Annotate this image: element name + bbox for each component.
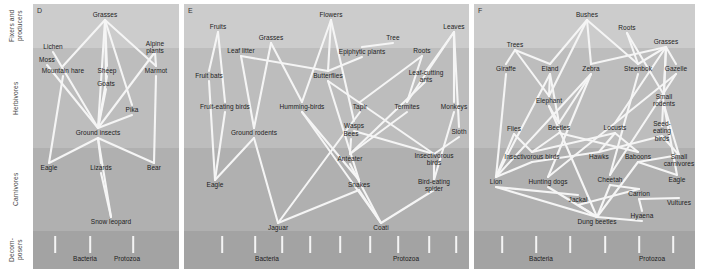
node-hyaena[interactable]: Hyaena [631, 212, 654, 219]
node-butterflies[interactable]: Butterflies [313, 72, 343, 79]
decomposer-label-protozoa: Protozoa [639, 255, 665, 262]
node-insectivorous-birds[interactable]: Insectivorous birds [414, 152, 453, 167]
decomposer-tick [221, 236, 223, 253]
node-eagle[interactable]: Eagle [207, 181, 224, 188]
decomposer-tick [254, 236, 256, 253]
node-flies[interactable]: Flies [507, 125, 521, 132]
node-giraffe[interactable]: Giraffe [496, 65, 516, 72]
panel-e: FlowersLeavesFruitsGrassesTreeLeaf litte… [184, 0, 469, 271]
node-seed-eating-birds[interactable]: Seed-eating birds [646, 120, 679, 142]
node-locusts[interactable]: Locusts [604, 124, 627, 131]
node-jackal[interactable]: Jackal [569, 196, 588, 203]
node-carrion[interactable]: Carrion [628, 190, 650, 197]
node-small-carnivores[interactable]: Small carnivores [664, 153, 695, 168]
food-web-link [381, 190, 434, 223]
node-vultures[interactable]: Vultures [667, 199, 691, 206]
trophic-level-axis: Fixers and producersHerbivoresCarnivores… [0, 0, 32, 271]
node-marmot[interactable]: Marmot [145, 67, 167, 74]
node-pika[interactable]: Pika [126, 106, 139, 113]
node-bees[interactable]: Bees [343, 130, 358, 137]
node-monkeys[interactable]: Monkeys [441, 103, 467, 110]
node-ground-insects[interactable]: Ground insects [76, 129, 121, 136]
node-tree[interactable]: Tree [386, 34, 399, 41]
node-leaf-litter[interactable]: Leaf litter [227, 47, 254, 54]
node-lion[interactable]: Lion [490, 178, 503, 185]
node-small-rodents[interactable]: Small rodents [649, 93, 680, 108]
food-web-link [241, 56, 254, 128]
node-ground-rodents[interactable]: Ground rodents [231, 129, 277, 136]
node-eagle[interactable]: Eagle [41, 164, 58, 171]
node-snakes[interactable]: Snakes [348, 181, 370, 188]
node-lichen[interactable]: Lichen [43, 43, 63, 50]
decomposer-label-bacteria: Bacteria [529, 255, 553, 262]
decomposer-tick [569, 236, 571, 253]
node-alpine-plants[interactable]: Alpine plants [143, 40, 167, 55]
node-cheetah[interactable]: Cheetah [598, 176, 623, 183]
node-moss[interactable]: Moss [39, 56, 55, 63]
node-bear[interactable]: Bear [147, 164, 161, 171]
food-web-link [209, 32, 218, 71]
food-web-links-e [184, 0, 469, 271]
decomposer-tick [428, 236, 430, 253]
decomposer-tick [501, 236, 503, 253]
node-dung-beetles[interactable]: Dung beetles [577, 218, 616, 225]
node-leaf-cutting-ants[interactable]: Leaf-cutting ants [405, 69, 448, 84]
node-grasses[interactable]: Grasses [654, 38, 679, 45]
node-hawks[interactable]: Hawks [589, 153, 609, 160]
node-steenbok[interactable]: Steenbok [624, 65, 652, 72]
node-insectivorous-birds[interactable]: Insectivorous birds [504, 153, 559, 160]
food-web-link [328, 57, 362, 71]
node-roots[interactable]: Roots [618, 24, 635, 31]
node-roots[interactable]: Roots [413, 47, 430, 54]
node-bushes[interactable]: Bushes [576, 11, 598, 18]
food-web-link [302, 20, 331, 102]
decomposer-tick [132, 236, 134, 253]
node-elephant[interactable]: Elephant [536, 97, 562, 104]
node-trees[interactable]: Trees [507, 41, 524, 48]
node-gazelle[interactable]: Gazelle [665, 65, 687, 72]
node-fruits[interactable]: Fruits [210, 23, 227, 30]
node-lizards[interactable]: Lizards [90, 164, 111, 171]
node-fruit-eating-birds[interactable]: Fruit-eating birds [200, 103, 250, 110]
food-web-link [218, 32, 225, 102]
food-web-figure: Fixers and producersHerbivoresCarnivores… [0, 0, 701, 271]
node-eland[interactable]: Eland [542, 65, 559, 72]
node-fruit-bats[interactable]: Fruit bats [195, 72, 223, 79]
node-wasps[interactable]: Wasps [344, 122, 364, 129]
node-mountain-hare[interactable]: Mountain hare [42, 67, 84, 74]
node-goats[interactable]: Goats [97, 80, 115, 87]
panel-letter-e: E [188, 7, 193, 14]
node-tapir[interactable]: Tapir [353, 103, 367, 110]
panel-letter-f: F [478, 7, 482, 14]
node-grasses[interactable]: Grasses [93, 11, 118, 18]
food-web-link [514, 134, 532, 152]
food-web-link [154, 76, 156, 163]
node-eagle[interactable]: Eagle [669, 176, 686, 183]
food-web-link [49, 76, 63, 163]
node-grasses[interactable]: Grasses [259, 34, 284, 41]
axis-label-carnivores: Carnivores [0, 148, 32, 231]
node-sloth[interactable]: Sloth [451, 128, 466, 135]
node-leaves[interactable]: Leaves [443, 23, 464, 30]
node-sheep[interactable]: Sheep [97, 67, 116, 74]
decomposer-tick [638, 236, 640, 253]
node-baboons[interactable]: Baboons [625, 153, 651, 160]
node-anteater[interactable]: Anteater [337, 155, 362, 162]
food-web-link [362, 43, 393, 47]
node-jaguar[interactable]: Jaguar [268, 224, 288, 231]
node-flowers[interactable]: Flowers [319, 11, 342, 18]
node-bird-eating-spider[interactable]: Bird-eating spider [417, 178, 452, 193]
node-hunting-dogs[interactable]: Hunting dogs [528, 178, 567, 185]
node-snow-leopard[interactable]: Snow leopard [91, 218, 131, 225]
axis-label-decomposers: Decom- posers [0, 231, 32, 269]
decomposer-tick [369, 236, 371, 253]
node-humming-birds[interactable]: Humming-birds [280, 103, 325, 110]
panel-d: GrassesLichenAlpine plantsMossMountain h… [33, 0, 179, 271]
node-termites[interactable]: Termites [394, 103, 419, 110]
node-coati[interactable]: Coati [373, 224, 388, 231]
node-zebra[interactable]: Zebra [582, 65, 599, 72]
food-web-link [209, 81, 215, 180]
node-epiphytic-plants[interactable]: Epiphytic plants [339, 48, 386, 55]
decomposer-label-bacteria: Bacteria [73, 255, 97, 262]
node-beetles[interactable]: Beetles [548, 124, 570, 131]
